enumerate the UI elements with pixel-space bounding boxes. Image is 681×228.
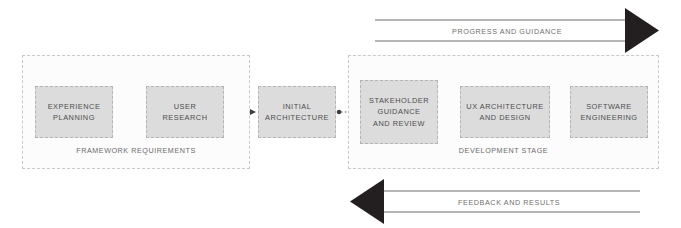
node-software-engineering-label: SOFTWARE ENGINEERING — [577, 101, 640, 124]
group-development-stage-label: DEVELOPMENT STAGE — [349, 146, 658, 155]
group-framework-requirements-label: FRAMEWORK REQUIREMENTS — [23, 146, 249, 155]
feedback-and-results-label: FEEDBACK AND RESULTS — [458, 198, 560, 207]
arrow-head-left-icon — [350, 179, 384, 224]
node-initial-architecture[interactable]: INITIAL ARCHITECTURE — [258, 86, 336, 138]
node-experience-planning-label: EXPERIENCE PLANNING — [45, 101, 104, 124]
node-ux-architecture-and-design-label: UX ARCHITECTURE AND DESIGN — [463, 101, 546, 124]
node-experience-planning[interactable]: EXPERIENCE PLANNING — [35, 86, 113, 138]
node-stakeholder-guidance-and-review[interactable]: STAKEHOLDER GUIDANCE AND REVIEW — [360, 80, 438, 144]
node-stakeholder-guidance-and-review-label: STAKEHOLDER GUIDANCE AND REVIEW — [366, 95, 432, 130]
arrow-head-right-icon — [625, 8, 659, 53]
node-initial-architecture-label: INITIAL ARCHITECTURE — [262, 101, 332, 124]
node-user-research-label: USER RESEARCH — [159, 101, 210, 124]
process-flow-diagram: FRAMEWORK REQUIREMENTS DEVELOPMENT STAGE… — [0, 0, 681, 228]
node-software-engineering[interactable]: SOFTWARE ENGINEERING — [570, 86, 648, 138]
progress-and-guidance-label: PROGRESS AND GUIDANCE — [452, 27, 562, 36]
node-ux-architecture-and-design[interactable]: UX ARCHITECTURE AND DESIGN — [460, 86, 550, 138]
node-user-research[interactable]: USER RESEARCH — [146, 86, 224, 138]
